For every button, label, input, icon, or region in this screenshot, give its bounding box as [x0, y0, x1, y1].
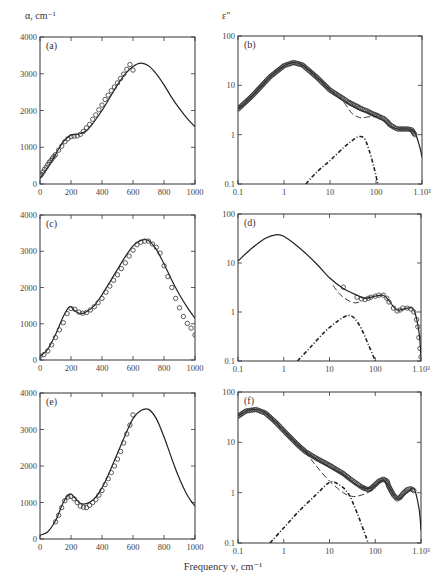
- x-tick-label: 100: [370, 187, 383, 197]
- data-point-marker: [189, 326, 193, 330]
- y-tick-label: 4000: [20, 210, 37, 220]
- data-point-marker: [127, 254, 131, 258]
- panel-f: 0.11101001.10³0.1110100(f): [222, 387, 430, 556]
- data-point-marker: [109, 89, 113, 93]
- panel-label: (f): [244, 395, 254, 407]
- y-tick-label: 1000: [20, 142, 37, 152]
- y-tick-label: 1000: [20, 319, 37, 329]
- y-tick-label: 0: [33, 534, 37, 544]
- y-tick-label: 0: [33, 179, 37, 189]
- y-tick-label: 3000: [20, 69, 37, 79]
- figure-canvas: 0200400600800100001000200030004000(a)0.1…: [0, 0, 446, 584]
- plot-frame: [40, 393, 195, 539]
- x-tick-label: 600: [127, 187, 140, 197]
- y-tick-label: 2000: [20, 283, 37, 293]
- data-point-marker: [65, 311, 69, 315]
- y-tick-label: 3000: [20, 246, 37, 256]
- x-tick-label: 0: [38, 363, 42, 373]
- total-curve: [238, 409, 421, 530]
- x-tick-label: 1: [282, 546, 286, 556]
- x-tick-label: 1: [282, 364, 286, 374]
- panel-e: 0200400600800100001000200030004000(e): [20, 388, 204, 552]
- model-curve: [40, 239, 195, 356]
- total-curve: [238, 62, 422, 157]
- x-tick-label: 0: [38, 187, 42, 197]
- x-tick-label: 100: [369, 364, 382, 374]
- y-tick-label: 0.1: [224, 179, 235, 189]
- right-y-axis-label: ε": [222, 10, 230, 21]
- panel-c: 0200400600800100001000200030004000(c): [20, 210, 204, 373]
- panel-label: (c): [46, 218, 57, 230]
- data-point-marker: [131, 413, 135, 417]
- relaxation-curve: [333, 285, 361, 303]
- y-tick-label: 2000: [20, 106, 37, 116]
- panel-label: (a): [46, 40, 57, 52]
- x-tick-label: 1: [282, 187, 286, 197]
- y-tick-label: 1: [231, 307, 235, 317]
- panel-label: (b): [244, 39, 256, 51]
- x-tick-label: 400: [96, 363, 109, 373]
- resonance-curve: [298, 315, 376, 361]
- data-point-marker: [100, 103, 104, 107]
- y-tick-label: 2000: [20, 461, 37, 471]
- y-tick-label: 1: [231, 488, 235, 498]
- data-point-marker: [131, 68, 135, 72]
- x-tick-label: 1000: [187, 187, 204, 197]
- y-tick-label: 4000: [20, 32, 37, 42]
- y-tick-label: 0.1: [224, 356, 235, 366]
- data-point-marker: [100, 296, 104, 300]
- x-tick-label: 10: [325, 546, 334, 556]
- plot-frame: [238, 214, 421, 361]
- x-tick-label: 10: [326, 187, 335, 197]
- resonance-curve: [306, 137, 378, 184]
- y-tick-label: 1: [231, 130, 235, 140]
- x-tick-label: 200: [65, 542, 78, 552]
- x-tick-label: 1000: [187, 363, 204, 373]
- left-y-axis-label: α, cm⁻¹: [25, 10, 56, 21]
- plot-frame: [238, 36, 422, 184]
- x-tick-label: 800: [158, 187, 171, 197]
- y-tick-label: 0.1: [224, 538, 235, 548]
- data-point-marker: [118, 449, 122, 453]
- panel-b: 0.11101001.10³0.1110100(b): [222, 31, 431, 197]
- data-point-marker: [173, 296, 177, 300]
- x-tick-label: 800: [158, 542, 171, 552]
- data-point-marker: [185, 321, 189, 325]
- x-tick-label: 200: [65, 363, 78, 373]
- data-point-marker: [115, 273, 119, 277]
- data-point-marker: [87, 122, 91, 126]
- x-tick-label: 400: [96, 187, 109, 197]
- panel-label: (d): [244, 217, 256, 229]
- x-tick-label: 200: [65, 187, 78, 197]
- y-tick-label: 3000: [20, 425, 37, 435]
- panel-d: 0.11101001.10³0.1110100(d): [222, 209, 430, 374]
- data-point-marker: [106, 93, 110, 97]
- panel-label: (e): [46, 396, 57, 408]
- resonance-curve: [270, 482, 368, 543]
- x-tick-label: 0: [38, 542, 42, 552]
- x-tick-label: 800: [158, 363, 171, 373]
- y-tick-label: 100: [222, 387, 235, 397]
- model-curve: [40, 409, 195, 536]
- y-tick-label: 10: [227, 80, 236, 90]
- x-tick-label: 400: [96, 542, 109, 552]
- data-point-marker: [94, 113, 98, 117]
- data-point-marker: [112, 464, 116, 468]
- data-point-marker: [131, 248, 135, 252]
- y-tick-label: 100: [222, 31, 235, 41]
- data-point-marker: [170, 285, 174, 289]
- plot-frame: [40, 215, 195, 360]
- data-point-marker: [84, 505, 88, 509]
- data-point-marker: [128, 62, 132, 66]
- plot-frame: [40, 37, 195, 184]
- data-point-marker: [97, 108, 101, 112]
- x-tick-label: 600: [127, 542, 140, 552]
- x-axis-label: Frequency ν, cm⁻¹: [0, 560, 446, 572]
- data-point-marker: [111, 278, 115, 282]
- data-point-marker: [181, 314, 185, 318]
- data-point-marker: [177, 306, 181, 310]
- total-curve: [238, 234, 421, 357]
- x-tick-label: 1.10³: [412, 364, 430, 374]
- data-point-marker: [104, 290, 108, 294]
- y-tick-label: 10: [227, 258, 236, 268]
